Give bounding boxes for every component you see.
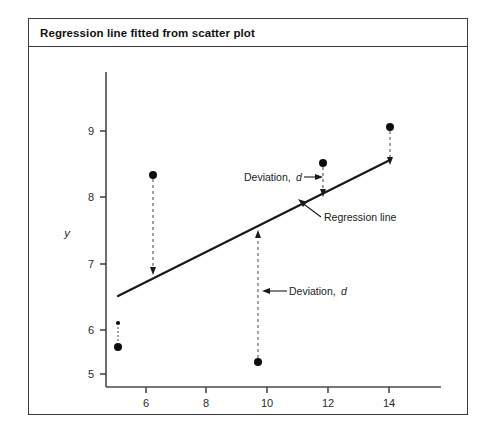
axes-group (106, 72, 441, 387)
data-point (149, 171, 157, 179)
x-tick-label-14: 14 (383, 397, 395, 409)
deviation-upper-arrowhead (315, 174, 323, 180)
deviation-arrowhead (150, 267, 156, 275)
deviation-upper-symbol: d (296, 171, 303, 183)
x-tick-label-8: 8 (203, 397, 209, 409)
y-tick-label-5: 5 (88, 368, 94, 380)
data-point (114, 343, 122, 351)
y-axis-title: y (63, 227, 71, 239)
y-tick-label-9: 9 (88, 125, 94, 137)
annotation-regression-line: Regression line (298, 199, 397, 223)
y-tick-label-7: 7 (88, 258, 94, 270)
x-tick-label-10: 10 (261, 397, 273, 409)
deviation-lower-symbol: d (341, 285, 348, 297)
scatter-plot-svg: 5 6 7 8 9 6 8 10 12 (29, 47, 467, 415)
data-points-group (114, 123, 394, 366)
plot-area: 5 6 7 8 9 6 8 10 12 (29, 47, 467, 415)
deviation-lines-group (118, 131, 390, 358)
y-tick-label-8: 8 (88, 191, 94, 203)
data-point (254, 358, 262, 366)
figure-title-bar: Regression line fitted from scatter plot (29, 19, 467, 47)
data-point (116, 321, 120, 325)
x-axis-ticks: 6 8 10 12 14 (143, 387, 395, 409)
deviation-upper-text: Deviation, (244, 171, 291, 183)
y-tick-label-6: 6 (88, 324, 94, 336)
figure-frame: Regression line fitted from scatter plot… (28, 18, 468, 415)
data-point (319, 159, 327, 167)
figure-title: Regression line fitted from scatter plot (29, 27, 255, 39)
data-point (386, 123, 394, 131)
x-tick-label-12: 12 (322, 397, 334, 409)
regression-label-text: Regression line (324, 211, 397, 223)
deviation-lower-text: Deviation, (289, 285, 336, 297)
y-axis-ticks: 5 6 7 8 9 (88, 125, 106, 380)
annotation-deviation-lower: Deviation, d (262, 285, 348, 297)
annotation-deviation-upper: Deviation, d (244, 171, 323, 183)
x-tick-label-6: 6 (143, 397, 149, 409)
deviation-arrowhead (255, 230, 261, 238)
